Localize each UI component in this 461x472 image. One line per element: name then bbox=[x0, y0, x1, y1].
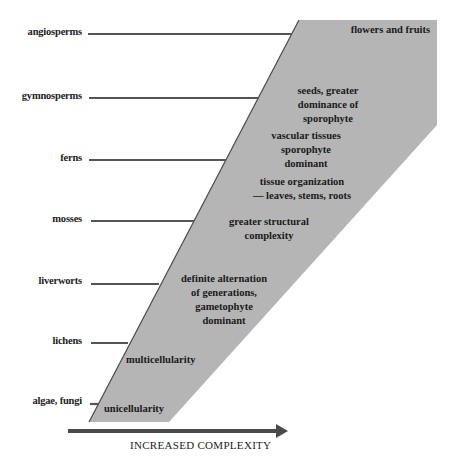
feature-structural-complexity: greater structural complexity bbox=[226, 215, 312, 243]
feature-tissue-organization: tissue organization — leaves, stems, roo… bbox=[252, 175, 352, 203]
feature-line: multicellularity bbox=[126, 353, 195, 367]
feature-line: — leaves, stems, roots bbox=[252, 189, 352, 203]
feature-flowers-fruits: flowers and fruits bbox=[345, 23, 430, 37]
feature-line: unicellularity bbox=[104, 402, 164, 416]
feature-line: seeds, greater bbox=[283, 84, 373, 98]
group-label-gymnosperms: gymnosperms bbox=[2, 89, 82, 102]
feature-line: dominance of bbox=[283, 98, 373, 112]
group-label-algae-fungi: algae, fungi bbox=[2, 394, 82, 407]
group-label-mosses: mosses bbox=[2, 212, 82, 225]
feature-line: greater structural bbox=[226, 215, 312, 229]
group-label-ferns: ferns bbox=[2, 151, 82, 164]
axis-label: INCREASED COMPLEXITY bbox=[130, 439, 271, 451]
feature-line: gametophyte bbox=[174, 300, 274, 314]
feature-vascular-tissues: vascular tissues sporophyte dominant bbox=[270, 129, 342, 171]
feature-seeds: seeds, greater dominance of sporophyte bbox=[283, 84, 373, 126]
complexity-diagram: angiosperms gymnosperms ferns mosses liv… bbox=[0, 0, 461, 472]
feature-line: sporophyte bbox=[270, 143, 342, 157]
feature-line: of generations, bbox=[174, 286, 274, 300]
feature-alternation-of-generations: definite alternation of generations, gam… bbox=[174, 272, 274, 328]
feature-line: complexity bbox=[226, 229, 312, 243]
feature-line: dominant bbox=[174, 314, 274, 328]
axis-arrow bbox=[68, 424, 288, 438]
feature-line: dominant bbox=[270, 157, 342, 171]
feature-line: tissue organization bbox=[252, 175, 352, 189]
group-label-liverworts: liverworts bbox=[2, 274, 82, 287]
feature-multicellularity: multicellularity bbox=[126, 353, 195, 367]
feature-unicellularity: unicellularity bbox=[104, 402, 164, 416]
group-label-lichens: lichens bbox=[2, 334, 82, 347]
feature-line: flowers and fruits bbox=[345, 23, 430, 37]
feature-line: vascular tissues bbox=[270, 129, 342, 143]
feature-line: sporophyte bbox=[283, 112, 373, 126]
group-label-angiosperms: angiosperms bbox=[2, 25, 82, 38]
feature-line: definite alternation bbox=[174, 272, 274, 286]
